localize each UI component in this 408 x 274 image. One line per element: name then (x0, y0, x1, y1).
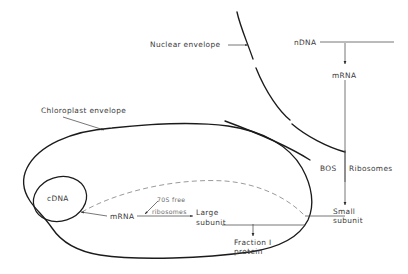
chloroplast-envelope-label: Chloroplast envelope (41, 106, 126, 116)
nuclear-envelope-label: Nuclear envelope (150, 40, 220, 50)
fraction-i-protein-label-line2: protein (234, 247, 263, 257)
nuclear-envelope-segment-lower-left (225, 121, 310, 160)
free-ribosomes-label-line2: ribosomes (152, 208, 187, 217)
nuclear-envelope-segment-top (237, 12, 253, 59)
large-subunit-label-line1: Large (196, 208, 219, 218)
ndna-label: nDNA (294, 38, 316, 48)
chloroplast-mrna-label: mRNA (110, 212, 134, 222)
nuclear-envelope-segment-bottom (292, 124, 345, 152)
small-subunit-label-line2: subunit (333, 216, 363, 226)
ribosomes-80s-size-label: BOS (320, 164, 337, 174)
cdna-label: cDNA (47, 194, 69, 204)
chloroplast-feedback-dashed-arc (82, 181, 305, 216)
free-ribosomes-label-line1: 70S free (157, 196, 185, 205)
mrna-to-cdna-arrow (81, 212, 107, 216)
large-subunit-label-line2: subunit (196, 218, 226, 228)
diagram-canvas: Nuclear envelope Chloroplast envelope nD… (0, 0, 408, 274)
nuclear-mrna-label: mRNA (332, 71, 356, 81)
ribosomes-80s-word-label: Ribosomes (349, 164, 393, 174)
nuclear-envelope-segment-middle (256, 68, 290, 120)
chloroplast-envelope-leader (63, 117, 104, 130)
